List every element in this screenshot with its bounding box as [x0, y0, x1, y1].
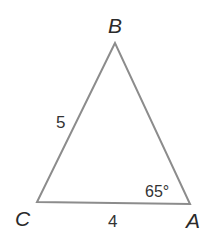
vertex-label-a: A	[184, 209, 200, 232]
side-label-cb: 5	[56, 113, 65, 132]
angle-label-a: 65°	[145, 183, 169, 200]
vertex-label-b: B	[108, 14, 122, 37]
triangle-diagram: B C A 5 4 65°	[0, 0, 219, 244]
vertex-label-c: C	[15, 207, 31, 230]
side-label-ca: 4	[108, 212, 117, 231]
